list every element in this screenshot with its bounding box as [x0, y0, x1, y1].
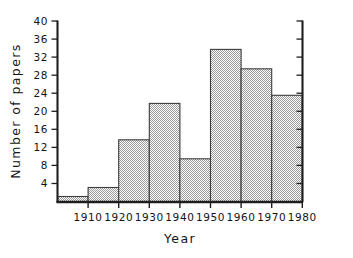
x-tick-label: 1980	[288, 211, 317, 223]
chart-canvas: 40 36 32 28 24 20 16 12 8 4 1910 1920 19…	[0, 0, 353, 258]
y-tick-label: 32	[33, 51, 48, 63]
y-tick-label: 8	[41, 159, 48, 171]
bar-chart-figure: 40 36 32 28 24 20 16 12 8 4 1910 1920 19…	[0, 0, 353, 258]
x-axis-title: Year	[163, 231, 196, 246]
bar-1960-1970	[241, 69, 272, 202]
x-tick-label: 1970	[257, 211, 286, 223]
y-tick-label: 16	[33, 123, 48, 135]
bar-1920-1930	[119, 140, 150, 202]
bar-1900-1910	[58, 197, 89, 202]
bar-1940-1950	[180, 159, 211, 202]
x-tick-label: 1920	[104, 211, 133, 223]
x-tick-labels: 1910 1920 1930 1940 1950 1960 1970 1980	[74, 211, 317, 223]
y-tick-label: 4	[41, 177, 48, 189]
y-axis-title: Number of papers	[8, 43, 23, 178]
x-tick-label: 1930	[135, 211, 164, 223]
bar-1950-1960	[211, 49, 242, 201]
x-tick-label: 1910	[74, 211, 103, 223]
x-tick-label: 1960	[227, 211, 256, 223]
y-tick-label: 24	[33, 87, 48, 99]
y-tick-label: 28	[33, 69, 48, 81]
y-tick-label: 12	[33, 141, 48, 153]
x-tick-label: 1940	[165, 211, 194, 223]
bar-1930-1940	[149, 103, 180, 201]
y-tick-label: 40	[33, 15, 48, 27]
bar-1910-1920	[88, 188, 119, 202]
y-tick-label: 20	[33, 105, 48, 117]
x-tick-label: 1950	[196, 211, 225, 223]
y-tick-label: 36	[33, 33, 48, 45]
